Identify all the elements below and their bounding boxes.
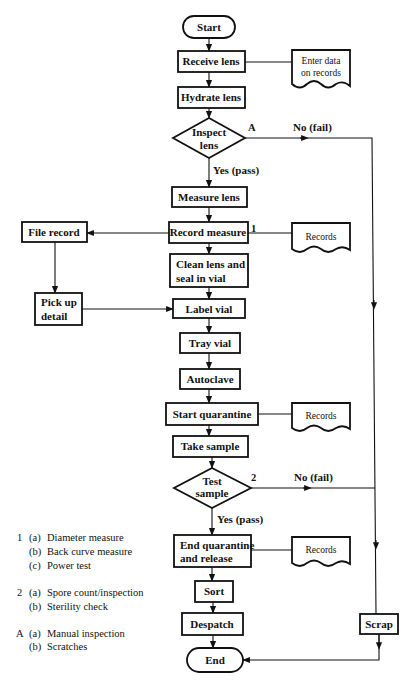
svg-text:Receive lens: Receive lens <box>182 55 240 67</box>
start-terminal: Start <box>183 16 235 38</box>
test-pass-label: Yes (pass) <box>217 513 263 526</box>
svg-text:Autoclave: Autoclave <box>186 373 233 385</box>
step-label-vial: Label vial <box>173 299 245 318</box>
svg-text:Despatch: Despatch <box>190 618 233 630</box>
decision-inspect-lens: Inspect lens A No (fail) Yes (pass) <box>173 118 332 177</box>
footnote-1: 1 (a) Diameter measure (b) Back curve me… <box>17 532 132 572</box>
svg-text:seal in vial: seal in vial <box>176 272 226 284</box>
svg-text:(a): (a) <box>29 587 41 599</box>
step-clean-lens: Clean lens and seal in vial <box>170 254 248 287</box>
document-records-measure: Records <box>292 223 350 252</box>
svg-text:Scratches: Scratches <box>47 641 87 652</box>
svg-text:and release: and release <box>180 552 233 564</box>
svg-text:Diameter measure: Diameter measure <box>47 532 124 543</box>
start-label: Start <box>197 21 221 33</box>
footnote-2: 2 (a) Spore count/inspection (b) Sterili… <box>17 587 144 613</box>
svg-text:Take sample: Take sample <box>181 440 240 452</box>
step-measure-lens: Measure lens <box>172 187 247 207</box>
svg-text:Scrap: Scrap <box>365 618 393 630</box>
svg-text:Spore count/inspection: Spore count/inspection <box>47 587 144 598</box>
svg-text:Hydrate lens: Hydrate lens <box>181 91 242 103</box>
lens-process-flowchart: Start End Receive lens Hydrate lens Meas… <box>0 0 414 687</box>
svg-text:Enter data: Enter data <box>302 56 342 66</box>
step-pick-up-detail: Pick up detail <box>35 293 82 325</box>
inspect-fail-label: No (fail) <box>293 121 332 134</box>
svg-text:Records: Records <box>305 232 336 242</box>
svg-text:Record measure: Record measure <box>170 226 247 238</box>
step-autoclave: Autoclave <box>180 369 240 389</box>
svg-text:(b): (b) <box>29 601 42 613</box>
step-sort: Sort <box>195 581 233 602</box>
step-tray-vial: Tray vial <box>180 333 240 353</box>
svg-text:Power test: Power test <box>47 560 91 571</box>
inspect-footnote-tag: A <box>248 122 256 133</box>
svg-text:Back curve measure: Back curve measure <box>47 546 132 557</box>
svg-text:sample: sample <box>196 487 229 499</box>
svg-text:Inspect: Inspect <box>192 126 227 138</box>
svg-text:(a): (a) <box>29 628 41 640</box>
svg-text:(a): (a) <box>29 532 41 544</box>
step-record-measure: Record measure 1 <box>169 222 256 243</box>
step-scrap: Scrap <box>360 614 398 634</box>
svg-text:(b): (b) <box>29 641 42 653</box>
step-take-sample: Take sample <box>173 436 248 457</box>
step-hydrate-lens: Hydrate lens <box>178 87 245 108</box>
step-file-record: File record <box>22 222 87 242</box>
step-despatch: Despatch <box>182 613 243 635</box>
svg-text:(c): (c) <box>29 560 41 572</box>
step-receive-lens: Receive lens <box>178 51 245 72</box>
test-fail-label: No (fail) <box>294 471 333 484</box>
svg-text:detail: detail <box>41 310 67 322</box>
svg-text:Start quarantine: Start quarantine <box>173 408 252 420</box>
end-label: End <box>205 654 225 666</box>
svg-text:End quarantine: End quarantine <box>180 539 254 551</box>
svg-text:Pick up: Pick up <box>41 296 77 308</box>
end-terminal: End <box>187 648 243 672</box>
step-start-quarantine: Start quarantine <box>166 403 258 425</box>
footnotes-legend: 1 (a) Diameter measure (b) Back curve me… <box>16 532 144 653</box>
svg-text:Test: Test <box>202 475 221 487</box>
svg-text:lens: lens <box>200 139 219 151</box>
svg-text:(b): (b) <box>29 546 42 558</box>
svg-text:Label vial: Label vial <box>186 303 233 315</box>
decision-test-sample: Test sample 2 No (fail) Yes (pass) <box>174 468 333 526</box>
svg-text:Tray vial: Tray vial <box>189 337 231 349</box>
svg-text:Manual inspection: Manual inspection <box>47 628 126 639</box>
svg-text:Records: Records <box>305 411 336 421</box>
step-end-quarantine: End quarantine and release <box>174 535 254 567</box>
document-enter-data: Enter data on records <box>292 50 350 88</box>
svg-text:Sterility check: Sterility check <box>47 601 109 612</box>
record-measure-footnote-tag: 1 <box>251 223 256 234</box>
svg-text:Measure lens: Measure lens <box>178 191 241 203</box>
svg-text:1: 1 <box>17 532 22 543</box>
svg-text:Records: Records <box>305 545 336 555</box>
svg-text:File record: File record <box>28 226 79 238</box>
svg-text:Sort: Sort <box>204 585 225 597</box>
svg-text:on records: on records <box>301 68 341 78</box>
inspect-pass-label: Yes (pass) <box>213 164 259 177</box>
document-records-quarantine: Records <box>292 403 350 431</box>
svg-text:2: 2 <box>17 587 22 598</box>
svg-text:Clean lens and: Clean lens and <box>176 258 245 270</box>
document-records-release: Records <box>292 537 350 566</box>
footnote-a: A (a) Manual inspection (b) Scratches <box>16 628 126 653</box>
svg-text:A: A <box>16 628 24 639</box>
test-footnote-tag: 2 <box>251 472 256 483</box>
